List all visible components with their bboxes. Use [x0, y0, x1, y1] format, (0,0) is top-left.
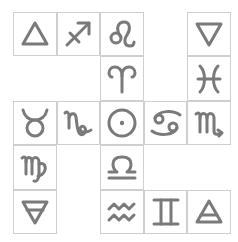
cell-taurus	[13, 101, 57, 145]
cell-scorpio	[187, 101, 231, 145]
cancer-icon	[149, 106, 183, 140]
cell-air	[187, 190, 231, 234]
cell-fire	[13, 12, 57, 56]
cell-capricorn	[57, 101, 101, 145]
capricorn-icon	[61, 106, 95, 140]
libra-icon	[105, 150, 139, 184]
gemini-icon	[149, 195, 183, 229]
pisces-icon	[192, 62, 226, 96]
taurus-icon	[18, 106, 52, 140]
cell-cancer	[144, 101, 188, 145]
scorpio-icon	[192, 106, 226, 140]
air-triangle-icon	[192, 195, 226, 229]
virgo-icon	[18, 150, 52, 184]
cell-libra	[100, 145, 144, 189]
cell-pisces	[187, 56, 231, 100]
cell-virgo	[13, 145, 57, 189]
water-triangle-icon	[192, 17, 226, 51]
leo-icon	[105, 17, 139, 51]
sagittarius-icon	[61, 17, 95, 51]
cell-gemini	[144, 190, 188, 234]
aries-icon	[105, 62, 139, 96]
aquarius-icon	[105, 195, 139, 229]
earth-triangle-icon	[18, 195, 52, 229]
cell-sagittarius	[57, 12, 101, 56]
cell-aquarius	[100, 190, 144, 234]
cell-sun	[100, 101, 144, 145]
fire-triangle-icon	[18, 17, 52, 51]
cell-earth	[13, 190, 57, 234]
cell-water	[187, 12, 231, 56]
cell-leo	[100, 12, 144, 56]
symbol-grid	[13, 12, 226, 229]
cell-aries	[100, 56, 144, 100]
sun-icon	[105, 106, 139, 140]
